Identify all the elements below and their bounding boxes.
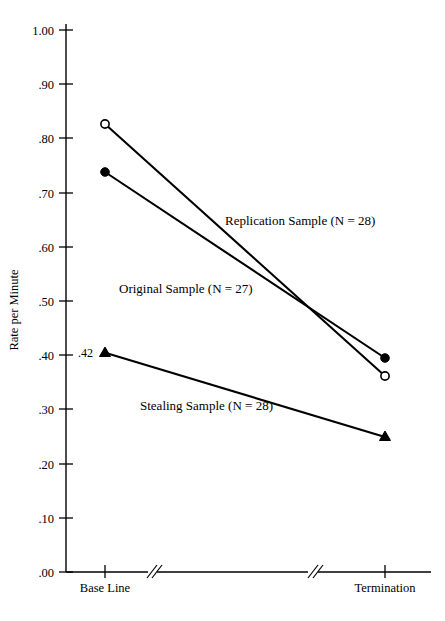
y-tick-label-0-60: .60 (38, 241, 54, 255)
point-label-stealing-base-line: .42 (78, 346, 93, 360)
series-stealing-line (106, 353, 385, 437)
series-replication-sample (101, 120, 389, 380)
series-original-sample (101, 168, 390, 363)
chart-figure: Rate per Minute (0, 0, 445, 621)
series-stealing-sample (100, 347, 391, 441)
x-tick-label-base-line: Base Line (80, 581, 131, 595)
line-chart-svg: Rate per Minute (0, 0, 445, 621)
y-tick-label-0-90: .90 (38, 78, 54, 92)
y-tick-label-0-70: .70 (38, 187, 54, 201)
y-tick-label-1-00: 1.00 (32, 24, 54, 38)
series-replication-point-base-line (101, 120, 109, 128)
y-axis-title: Rate per Minute (7, 269, 21, 351)
series-label-original: Original Sample (N = 27) (119, 281, 253, 296)
series-replication-line (105, 124, 385, 376)
y-tick-label-0-40: .40 (38, 349, 54, 363)
series-original-point-base-line (101, 168, 110, 177)
series-original-point-termination (381, 354, 390, 363)
y-tick-label-0-30: .30 (38, 403, 54, 417)
series-replication-point-termination (381, 372, 389, 380)
x-tick-label-termination: Termination (355, 581, 417, 595)
y-tick-label-0-50: .50 (38, 295, 54, 309)
series-label-replication: Replication Sample (N = 28) (225, 213, 375, 228)
y-tick-label-0-20: .20 (38, 458, 54, 472)
series-original-line (105, 172, 385, 358)
series-label-stealing: Stealing Sample (N = 28) (140, 398, 273, 413)
y-tick-label-0-10: .10 (38, 512, 54, 526)
y-tick-label-0-00: .00 (38, 566, 54, 580)
y-tick-label-0-80: .80 (38, 132, 54, 146)
series-stealing-point-base-line (100, 347, 111, 357)
